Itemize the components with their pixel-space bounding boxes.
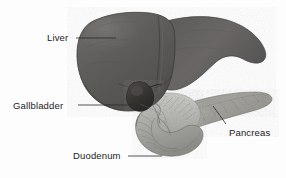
label-liver: Liver <box>47 32 68 43</box>
label-duodenum: Duodenum <box>73 150 121 161</box>
label-gallbladder: Gallbladder <box>13 100 63 111</box>
label-pancreas: Pancreas <box>229 127 270 138</box>
anatomical-figure: Liver Gallbladder Duodenum Pancreas <box>0 0 286 178</box>
anatomy-illustration <box>0 0 286 178</box>
